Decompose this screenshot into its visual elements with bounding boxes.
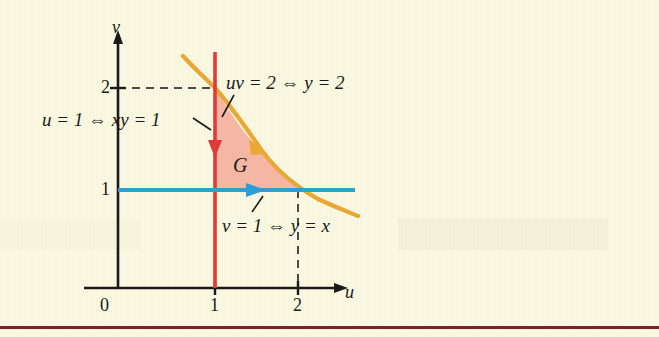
v-axis-label: v [112,18,120,36]
figure-page: v u 0 1 2 1 2 uv = 2 ⇔ y = 2 u = 1 ⇔ xy … [0,0,659,337]
vertical-boundary-equation-label: u = 1 ⇔ xy = 1 [42,110,161,129]
horizontal-boundary-equation-label: v = 1 ⇔ y = x [222,216,330,235]
curve-equation-label: uv = 2 ⇔ y = 2 [226,73,345,92]
v1-label-leader-line [252,196,263,212]
page-bottom-rule [0,326,659,329]
tick-label-v-2: 2 [101,78,110,96]
u1-label-leader-line [193,118,211,130]
u-axis-label: u [345,283,354,301]
curve-direction-arrowhead [249,139,268,155]
tick-label-v-1: 1 [101,180,110,198]
uv-plane-diagram [0,0,659,337]
tick-label-origin: 0 [100,296,109,314]
region-label: G [233,155,247,175]
tick-label-u-2: 2 [293,296,302,314]
tick-label-u-1: 1 [210,296,219,314]
